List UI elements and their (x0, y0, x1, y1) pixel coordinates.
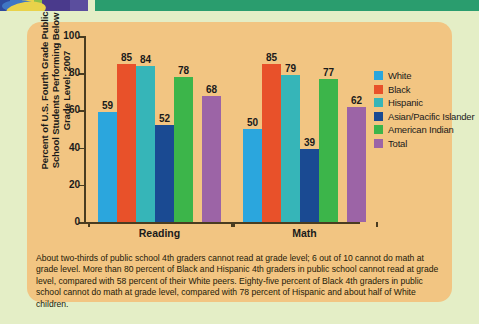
x-axis-end-tick (88, 222, 90, 227)
y-tick-label: 40 (69, 142, 80, 153)
bar-value-label: 59 (102, 100, 113, 111)
bar-value-label: 84 (140, 54, 151, 65)
legend-label: American Indian (388, 124, 454, 135)
chart-legend: WhiteBlackHispanicAsian/Pacific Islander… (374, 69, 474, 150)
legend-item-asian-pacific-islander: Asian/Pacific Islander (374, 110, 474, 124)
x-axis-end-tick (376, 222, 378, 227)
bar-value-label: 79 (285, 63, 296, 74)
bar-math-total: 62 (347, 107, 366, 222)
bar-value-label: 39 (304, 137, 315, 148)
bar-reading-hispanic: 84 (136, 66, 155, 222)
legend-item-total: Total (374, 137, 474, 151)
legend-label: Black (388, 84, 410, 95)
y-tick-label: 60 (69, 104, 80, 115)
legend-swatch-icon (374, 98, 383, 107)
bar-math-american-indian: 77 (319, 79, 338, 222)
y-tick-label: 0 (74, 216, 80, 227)
legend-label: White (388, 70, 411, 81)
bar-math-white: 50 (243, 129, 262, 222)
legend-swatch-icon (374, 139, 383, 148)
y-tick-label: 80 (69, 67, 80, 78)
legend-swatch-icon (374, 125, 383, 134)
legend-swatch-icon (374, 85, 383, 94)
bar-value-label: 85 (121, 52, 132, 63)
bar-math-black: 85 (262, 64, 281, 222)
bar-value-label: 68 (206, 84, 217, 95)
chart-axes: 020406080100 598584527868508579397762 Re… (84, 36, 360, 222)
bar-reading-white: 59 (98, 112, 117, 222)
legend-item-white: White (374, 69, 474, 83)
legend-item-black: Black (374, 83, 474, 97)
bar-value-label: 77 (323, 67, 334, 78)
legend-swatch-icon (374, 112, 383, 121)
green-header-bar (95, 0, 479, 11)
bar-math-asian-pacific-islander: 39 (300, 149, 319, 222)
bar-reading-total: 68 (202, 96, 221, 222)
y-axis-line (84, 36, 86, 222)
y-tick-label: 100 (63, 30, 80, 41)
bar-value-label: 52 (159, 113, 170, 124)
bar-value-label: 85 (266, 52, 277, 63)
y-tick-label: 20 (69, 179, 80, 190)
bar-math-hispanic: 79 (281, 75, 300, 222)
legend-item-american-indian: American Indian (374, 123, 474, 137)
chart-panel: Percent of U.S. Fourth Grade Public Scho… (27, 22, 452, 302)
x-axis-end-tick (233, 222, 235, 227)
x-axis-line (84, 222, 360, 224)
legend-swatch-icon (374, 71, 383, 80)
plot-area: Percent of U.S. Fourth Grade Public Scho… (27, 22, 452, 250)
bar-value-label: 78 (178, 65, 189, 76)
legend-item-hispanic: Hispanic (374, 96, 474, 110)
bar-reading-asian-pacific-islander: 52 (155, 125, 174, 222)
page-top-strip (0, 0, 479, 12)
group-label-math: Math (243, 227, 366, 239)
chart-caption: About two-thirds of public school 4th gr… (36, 253, 443, 310)
legend-label: Asian/Pacific Islander (388, 111, 474, 122)
legend-label: Hispanic (388, 97, 423, 108)
bar-reading-black: 85 (117, 64, 136, 222)
legend-label: Total (388, 138, 407, 149)
bar-value-label: 62 (351, 95, 362, 106)
group-label-reading: Reading (98, 227, 221, 239)
bar-reading-american-indian: 78 (174, 77, 193, 222)
bar-value-label: 50 (247, 117, 258, 128)
